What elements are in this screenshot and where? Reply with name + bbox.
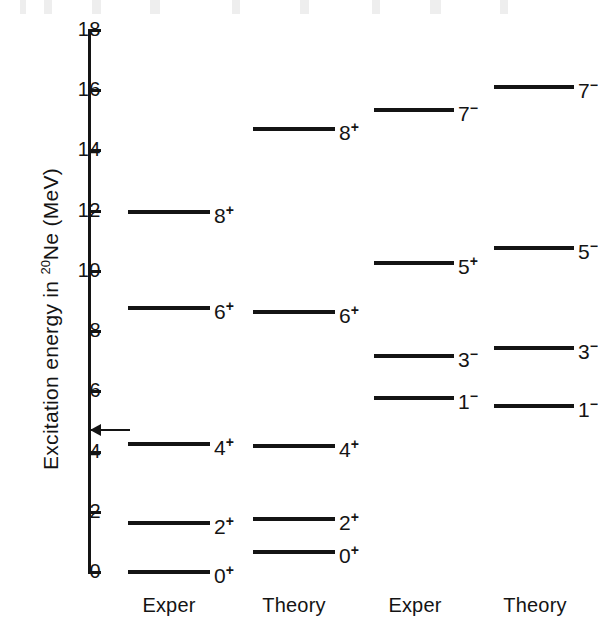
level-label: 4+ <box>214 432 234 458</box>
level-parity: − <box>470 346 478 362</box>
level-parity: + <box>351 542 359 558</box>
level-parity: + <box>470 253 478 269</box>
level-parity: + <box>351 119 359 135</box>
mass-number-superscript: 20 <box>38 260 53 274</box>
level-bar <box>253 310 335 314</box>
level-label: 7− <box>578 75 598 101</box>
level-label: 2+ <box>214 511 234 537</box>
level-bar <box>128 306 210 310</box>
level-bar <box>128 442 210 446</box>
level-bar <box>253 127 335 131</box>
column-caption-4: Theory <box>474 594 596 616</box>
level-bar <box>494 85 574 89</box>
level-label: 5+ <box>458 251 478 277</box>
level-spin: 1 <box>458 390 470 413</box>
level-label: 3− <box>578 336 598 362</box>
level-label: 6+ <box>339 300 359 326</box>
level-parity: + <box>226 202 234 218</box>
level-parity: − <box>590 238 598 254</box>
y-axis-title: Excitation energy in 20Ne (MeV) <box>34 168 63 470</box>
level-spin: 0 <box>214 564 226 587</box>
level-bar <box>253 444 335 448</box>
level-label: 4+ <box>339 434 359 460</box>
level-parity: + <box>226 562 234 578</box>
y-tick-label: 8 <box>67 320 101 340</box>
level-label: 7− <box>458 98 478 124</box>
level-spin: 1 <box>578 398 590 421</box>
level-label: 3− <box>458 344 478 370</box>
y-tick-label: 6 <box>67 380 101 400</box>
level-label: 0+ <box>339 540 359 566</box>
column-caption-1: Exper <box>108 594 230 616</box>
level-spin: 3 <box>458 348 470 371</box>
level-spin: 7 <box>578 79 590 102</box>
level-label: 5− <box>578 236 598 262</box>
level-parity: − <box>590 77 598 93</box>
y-tick-label: 16 <box>67 79 101 99</box>
level-label: 1− <box>458 386 478 412</box>
column-caption-3: Exper <box>354 594 476 616</box>
y-axis-line <box>88 30 91 573</box>
level-parity: + <box>226 513 234 529</box>
scan-bleedthrough-artifact <box>0 0 592 14</box>
level-parity: − <box>590 338 598 354</box>
level-spin: 2 <box>214 515 226 538</box>
y-axis-title-suffix: (MeV) <box>39 168 62 233</box>
level-bar <box>253 550 335 554</box>
level-bar <box>374 261 454 265</box>
y-tick-label: 18 <box>67 19 101 39</box>
level-spin: 4 <box>214 436 226 459</box>
level-parity: − <box>470 388 478 404</box>
level-parity: + <box>226 434 234 450</box>
level-spin: 7 <box>458 102 470 125</box>
level-spin: 3 <box>578 340 590 363</box>
threshold-arrow-marker <box>91 429 130 431</box>
level-label: 8+ <box>339 117 359 143</box>
level-spin: 2 <box>339 511 351 534</box>
level-spin: 0 <box>339 544 351 567</box>
level-bar <box>374 354 454 358</box>
level-parity: + <box>351 509 359 525</box>
y-tick-label: 10 <box>67 260 101 280</box>
level-label: 6+ <box>214 296 234 322</box>
level-bar <box>494 346 574 350</box>
level-spin: 6 <box>214 300 226 323</box>
level-spin: 5 <box>578 240 590 263</box>
level-parity: + <box>351 302 359 318</box>
y-tick-label: 4 <box>67 441 101 461</box>
level-spin: 5 <box>458 255 470 278</box>
y-tick-label: 12 <box>67 200 101 220</box>
nuclide-symbol: Ne <box>39 233 62 260</box>
level-spin: 4 <box>339 438 351 461</box>
level-spin: 8 <box>339 121 351 144</box>
level-label: 8+ <box>214 200 234 226</box>
level-parity: − <box>590 396 598 412</box>
y-tick-label: 2 <box>67 501 101 521</box>
level-bar <box>494 246 574 250</box>
level-bar <box>494 404 574 408</box>
level-parity: − <box>470 100 478 116</box>
level-spin: 8 <box>214 204 226 227</box>
level-bar <box>374 396 454 400</box>
y-tick-label: 14 <box>67 139 101 159</box>
column-caption-2: Theory <box>233 594 355 616</box>
level-label: 0+ <box>214 560 234 586</box>
y-axis-title-prefix: Excitation energy in <box>39 275 62 470</box>
y-tick-label: 0 <box>67 561 101 581</box>
level-spin: 6 <box>339 304 351 327</box>
level-bar <box>128 521 210 525</box>
level-parity: + <box>226 298 234 314</box>
level-bar <box>128 210 210 214</box>
level-parity: + <box>351 436 359 452</box>
level-bar <box>128 570 210 574</box>
level-bar <box>253 517 335 521</box>
level-bar <box>374 108 454 112</box>
level-label: 2+ <box>339 507 359 533</box>
level-label: 1− <box>578 394 598 420</box>
